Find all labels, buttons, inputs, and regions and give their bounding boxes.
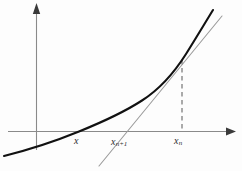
horizontal-axis-arrow-icon	[226, 128, 236, 136]
function-curve	[4, 10, 213, 156]
x-next-label: xn+1	[111, 137, 127, 148]
root-label: x	[74, 136, 79, 146]
x-n-label: xn	[174, 136, 182, 147]
newton-method-figure: x xn+1 xn	[0, 0, 242, 171]
x-n-subscript: n	[179, 139, 183, 147]
x-next-subscript: n+1	[116, 140, 128, 148]
vertical-axis-arrow-icon	[33, 3, 40, 14]
